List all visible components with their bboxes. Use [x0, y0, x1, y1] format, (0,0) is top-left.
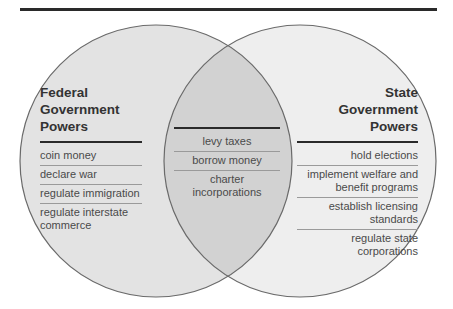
title-line: Government [297, 101, 418, 118]
list-item: borrow money [174, 152, 280, 171]
list-item: implement welfare and benefit programs [297, 166, 418, 198]
shared-powers-column: levy taxes borrow money charter incorpor… [174, 117, 280, 201]
title-line: Government [40, 101, 142, 118]
list-item: charter incorporations [174, 171, 280, 201]
list-item: declare war [40, 166, 142, 185]
heading-rule [297, 141, 418, 143]
title-line: Powers [297, 118, 418, 135]
title-line: Federal [40, 84, 142, 101]
state-powers-column: State Government Powers hold elections i… [297, 84, 418, 261]
title-line: State [297, 84, 418, 101]
heading-rule [174, 127, 280, 129]
state-title: State Government Powers [297, 84, 418, 135]
list-item: regulate immigration [40, 185, 142, 204]
list-item: hold elections [297, 147, 418, 166]
list-item: establish licensing standards [297, 198, 418, 230]
heading-rule [40, 141, 142, 143]
list-item: regulate interstate commerce [40, 204, 142, 235]
federal-powers-column: Federal Government Powers coin money dec… [40, 84, 142, 235]
list-item: coin money [40, 147, 142, 166]
federal-title: Federal Government Powers [40, 84, 142, 135]
list-item: levy taxes [174, 133, 280, 152]
list-item: regulate state corporations [297, 230, 418, 261]
title-line: Powers [40, 118, 142, 135]
